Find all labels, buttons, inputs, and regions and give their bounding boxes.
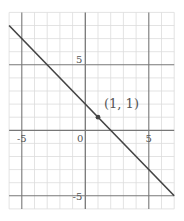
coordinate-plane: -505-55 (1, 1) [0,0,184,221]
labeled-points: (1, 1) [96,96,139,119]
point-label: (1, 1) [104,96,139,111]
line-series [9,26,174,196]
x-tick-label: 5 [146,133,152,144]
x-tick-label: -5 [17,133,27,144]
series-line [9,26,174,196]
y-tick-label: 5 [76,54,82,65]
point-marker [96,115,101,120]
tick-labels: -505-55 [17,54,152,202]
x-tick-label: 0 [77,133,83,144]
y-tick-label: -5 [73,191,83,202]
